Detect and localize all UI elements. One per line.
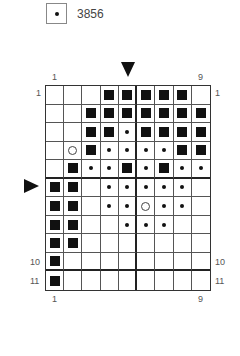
grid-cell — [155, 253, 173, 272]
grid-cell — [137, 197, 155, 216]
grid-cell — [119, 105, 137, 124]
filled-square-icon — [196, 108, 206, 118]
filled-square-icon — [159, 127, 169, 137]
bottom-right-label: 9 — [198, 294, 203, 304]
filled-square-icon — [50, 276, 60, 286]
grid-cell — [192, 179, 210, 198]
left-row-11-label: 11 — [30, 276, 39, 286]
dot-icon — [125, 185, 129, 189]
dot-icon — [180, 204, 184, 208]
grid-cell — [101, 123, 119, 142]
filled-square-icon — [159, 108, 169, 118]
top-right-label: 9 — [198, 72, 203, 82]
grid-cell — [155, 105, 173, 124]
grid-cell — [137, 234, 155, 253]
filled-square-icon — [50, 220, 60, 230]
grid-cell — [64, 271, 82, 290]
filled-square-icon — [104, 90, 114, 100]
dot-icon — [144, 185, 148, 189]
dot-icon — [125, 223, 129, 227]
filled-square-icon — [159, 163, 169, 173]
grid-cell — [46, 197, 64, 216]
grid-cell — [82, 105, 100, 124]
grid-cell — [137, 271, 155, 290]
grid-cell — [46, 160, 64, 179]
grid-cell — [119, 142, 137, 161]
grid-cell — [119, 234, 137, 253]
filled-square-icon — [159, 90, 169, 100]
grid-cell — [137, 142, 155, 161]
left-row-1-label: 1 — [36, 88, 41, 98]
grid-cell — [101, 271, 119, 290]
grid-cell — [46, 142, 64, 161]
grid-cell — [174, 216, 192, 235]
grid-cell — [137, 86, 155, 105]
grid-cell — [64, 253, 82, 272]
grid-cell — [192, 105, 210, 124]
grid-cell — [46, 216, 64, 235]
filled-square-icon — [177, 127, 187, 137]
open-circle-icon — [68, 146, 77, 155]
grid-cell — [82, 253, 100, 272]
grid-cell — [101, 216, 119, 235]
grid-cell — [192, 142, 210, 161]
filled-square-icon — [86, 127, 96, 137]
grid-cell — [155, 86, 173, 105]
filled-square-icon — [104, 108, 114, 118]
grid-cell — [137, 160, 155, 179]
right-row-10-label: 10 — [215, 257, 225, 267]
grid-cell — [137, 253, 155, 272]
grid-cell — [82, 179, 100, 198]
filled-square-icon — [86, 145, 96, 155]
grid-cell — [119, 86, 137, 105]
grid-cell — [174, 160, 192, 179]
dot-icon — [144, 148, 148, 152]
grid-cell — [64, 234, 82, 253]
filled-square-icon — [177, 90, 187, 100]
grid-cell — [155, 216, 173, 235]
grid-cell — [64, 160, 82, 179]
legend-label: 3856 — [77, 7, 104, 21]
grid-cell — [155, 179, 173, 198]
dot-icon — [107, 148, 111, 152]
grid-cell — [155, 197, 173, 216]
dot-icon — [162, 185, 166, 189]
filled-square-icon — [50, 182, 60, 192]
legend: 3856 — [46, 3, 104, 24]
grid-cell — [46, 86, 64, 105]
grid-cell — [192, 253, 210, 272]
bottom-left-label: 1 — [52, 294, 57, 304]
dot-icon — [107, 185, 111, 189]
grid-cell — [137, 105, 155, 124]
grid-cell — [174, 253, 192, 272]
grid-cell — [46, 271, 64, 290]
grid-cell — [101, 179, 119, 198]
grid-cell — [155, 123, 173, 142]
filled-square-icon — [177, 145, 187, 155]
legend-symbol-box — [46, 3, 67, 24]
dot-icon — [89, 166, 93, 170]
grid-cell — [192, 271, 210, 290]
grid-cell — [137, 216, 155, 235]
dot-icon — [55, 12, 59, 16]
filled-square-icon — [141, 108, 151, 118]
dot-icon — [180, 166, 184, 170]
grid-cell — [64, 197, 82, 216]
grid-cell — [101, 142, 119, 161]
grid-cell — [119, 179, 137, 198]
dot-icon — [144, 223, 148, 227]
grid-cell — [101, 86, 119, 105]
grid-cell — [64, 86, 82, 105]
filled-square-icon — [86, 108, 96, 118]
grid-cell — [46, 179, 64, 198]
dot-icon — [162, 223, 166, 227]
dot-icon — [199, 166, 203, 170]
dot-icon — [125, 130, 129, 134]
grid-cell — [155, 271, 173, 290]
grid-cell — [64, 216, 82, 235]
dot-icon — [107, 166, 111, 170]
grid-cell — [82, 271, 100, 290]
grid-cell — [101, 105, 119, 124]
grid-cell — [46, 253, 64, 272]
grid-cell — [46, 105, 64, 124]
